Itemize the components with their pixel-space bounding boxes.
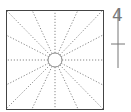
side-label: 4: [112, 7, 123, 24]
ray-line: [6, 65, 50, 109]
ray-line: [58, 10, 78, 54]
ray-line: [6, 63, 49, 85]
ray-line: [61, 35, 103, 57]
ray-line: [61, 63, 103, 85]
ray-line: [32, 66, 52, 109]
ray-line: [6, 10, 50, 55]
ray-line: [60, 65, 103, 109]
ray-line: [60, 10, 103, 55]
ray-line: [58, 66, 78, 109]
ray-line: [32, 10, 52, 54]
center-circle: [48, 53, 62, 67]
ray-line: [6, 35, 49, 57]
